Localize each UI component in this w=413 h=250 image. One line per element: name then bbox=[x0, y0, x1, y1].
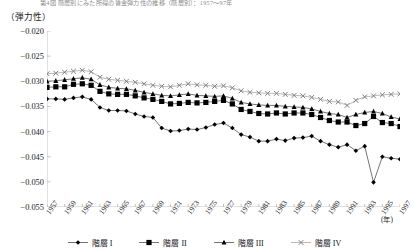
legend-item[interactable]: 階層 II bbox=[138, 237, 186, 248]
x-tick-label: 1987 bbox=[309, 199, 325, 217]
legend-item[interactable]: 階層 I bbox=[67, 237, 113, 248]
legend-item[interactable]: 階層 IV bbox=[290, 237, 341, 248]
square-marker bbox=[138, 238, 160, 247]
legend-label: 階層 III bbox=[238, 237, 264, 248]
triangle-marker bbox=[213, 238, 235, 247]
x-tick-label: 1973 bbox=[185, 199, 201, 217]
x-tick-label: 1971 bbox=[168, 199, 184, 217]
diamond-marker bbox=[67, 238, 89, 247]
x-tick-label: 1957 bbox=[44, 199, 60, 217]
legend-label: 階層 II bbox=[163, 237, 186, 248]
legend-label: 階層 IV bbox=[315, 237, 341, 248]
x-tick-label: 1993 bbox=[362, 199, 378, 217]
x-tick-label: 1975 bbox=[203, 199, 219, 217]
x-tick-label: 1961 bbox=[79, 199, 95, 217]
x-tick-label: 1977 bbox=[221, 199, 237, 217]
x-tick-label: 1989 bbox=[326, 199, 342, 217]
x-tick-label: 1985 bbox=[291, 199, 307, 217]
x-tick-label: 1963 bbox=[97, 199, 113, 217]
x-marker bbox=[290, 238, 312, 247]
x-tick-label: 1997 bbox=[397, 199, 413, 217]
x-tick-label: 1991 bbox=[344, 199, 360, 217]
x-axis-unit-label: (年) bbox=[381, 213, 393, 224]
legend-label: 階層 I bbox=[92, 237, 113, 248]
x-tick-label: 1981 bbox=[256, 199, 272, 217]
legend-item[interactable]: 階層 III bbox=[213, 237, 264, 248]
x-tick-label: 1965 bbox=[115, 199, 131, 217]
chart-legend: 階層 I階層 II階層 III階層 IV bbox=[0, 234, 408, 250]
x-tick-label: 1983 bbox=[273, 199, 289, 217]
x-tick-label: 1969 bbox=[150, 199, 166, 217]
x-tick-label: 1979 bbox=[238, 199, 254, 217]
x-tick-label: 1967 bbox=[132, 199, 148, 217]
x-tick-label: 1959 bbox=[62, 199, 78, 217]
